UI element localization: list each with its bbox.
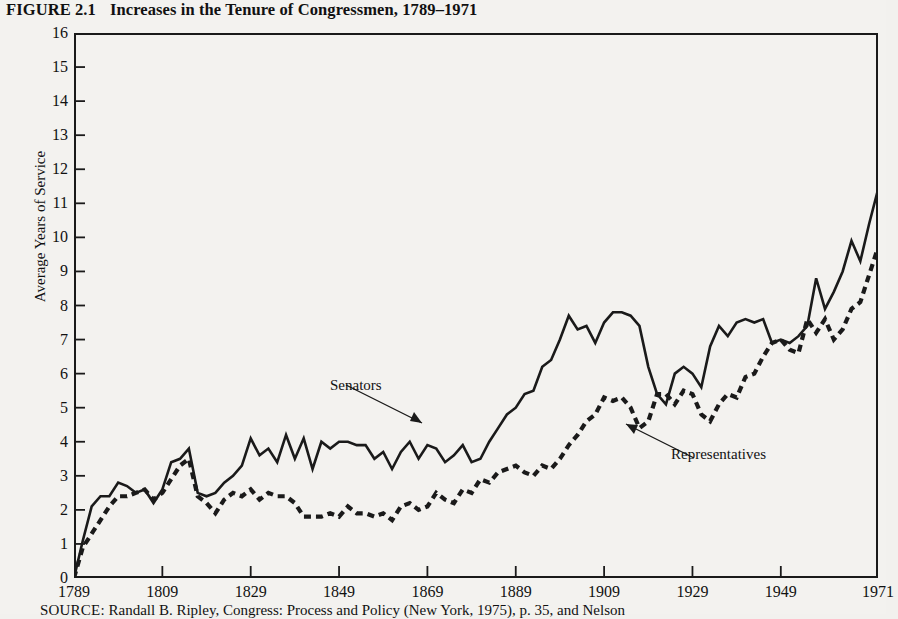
y-axis-tick: 12 xyxy=(0,161,68,177)
y-axis-tick: 14 xyxy=(0,93,68,109)
x-axis-tick-label: 1829 xyxy=(221,582,281,601)
senators-arrow-head xyxy=(410,412,422,423)
series-label-representatives: Representatives xyxy=(671,446,766,463)
x-axis-tick-label: 1869 xyxy=(397,582,457,601)
y-axis-tick: 10 xyxy=(0,229,68,245)
source-note: SOURCE: Randall B. Ripley, Congress: Pro… xyxy=(40,601,890,619)
y-axis-tick-label: 6 xyxy=(6,366,68,382)
y-axis-tick-label: 4 xyxy=(6,434,68,450)
y-axis-tick: 16 xyxy=(0,25,68,41)
y-axis-tick-label: 12 xyxy=(6,161,68,177)
axis-tick-marks xyxy=(74,33,878,578)
x-axis-tick-label: 1949 xyxy=(751,582,811,601)
y-axis-tick: 3 xyxy=(0,468,68,484)
series-line-representatives xyxy=(74,248,878,578)
y-axis-tick-label: 5 xyxy=(6,400,68,416)
y-axis-tick: 4 xyxy=(0,434,68,450)
chart-canvas xyxy=(74,33,878,578)
y-axis-tick: 5 xyxy=(0,400,68,416)
y-axis-tick: 6 xyxy=(0,366,68,382)
y-axis-tick: 11 xyxy=(0,195,68,211)
y-axis-tick-label: 1 xyxy=(6,536,68,552)
y-axis-tick-label: 11 xyxy=(6,195,68,211)
y-axis-tick: 9 xyxy=(0,263,68,279)
page-title: FIGURE 2.1Increases in the Tenure of Con… xyxy=(6,0,477,20)
y-axis-tick-label: 13 xyxy=(6,127,68,143)
series-label-senators: Senators xyxy=(330,377,382,394)
y-axis-tick-label: 15 xyxy=(6,59,68,75)
annotation-leader-lines xyxy=(346,385,694,458)
x-axis-tick-label: 1789 xyxy=(44,582,104,601)
representatives-arrow-head xyxy=(626,424,638,434)
x-axis-tick-label: 1809 xyxy=(132,582,192,601)
x-axis-tick-label: 1971 xyxy=(848,582,898,601)
y-axis-tick-label: 2 xyxy=(6,502,68,518)
figure-title-text: Increases in the Tenure of Congressmen, … xyxy=(110,0,477,19)
y-axis-tick: 13 xyxy=(0,127,68,143)
series-line-senators xyxy=(74,190,878,578)
x-axis-tick-label: 1909 xyxy=(574,582,634,601)
y-axis-tick-label: 7 xyxy=(6,332,68,348)
y-axis-tick: 7 xyxy=(0,332,68,348)
y-axis-tick-label: 16 xyxy=(6,25,68,41)
y-axis-tick-label: 8 xyxy=(6,298,68,314)
y-axis-tick: 8 xyxy=(0,298,68,314)
x-axis-tick-label: 1929 xyxy=(662,582,722,601)
y-axis-tick-label: 3 xyxy=(6,468,68,484)
x-axis-tick-label: 1849 xyxy=(309,582,369,601)
y-axis-tick: 2 xyxy=(0,502,68,518)
series-layer xyxy=(74,190,878,578)
y-axis-tick: 15 xyxy=(0,59,68,75)
y-axis-tick-label: 10 xyxy=(6,229,68,245)
source-text: Randall B. Ripley, Congress: Process and… xyxy=(109,602,626,618)
y-axis-tick-labels: 012345678910111213141516 xyxy=(0,0,68,614)
y-axis-tick: 1 xyxy=(0,536,68,552)
x-axis-tick-label: 1889 xyxy=(486,582,546,601)
y-axis-tick-label: 9 xyxy=(6,263,68,279)
y-axis-tick-label: 14 xyxy=(6,93,68,109)
source-label: SOURCE: xyxy=(40,602,105,618)
